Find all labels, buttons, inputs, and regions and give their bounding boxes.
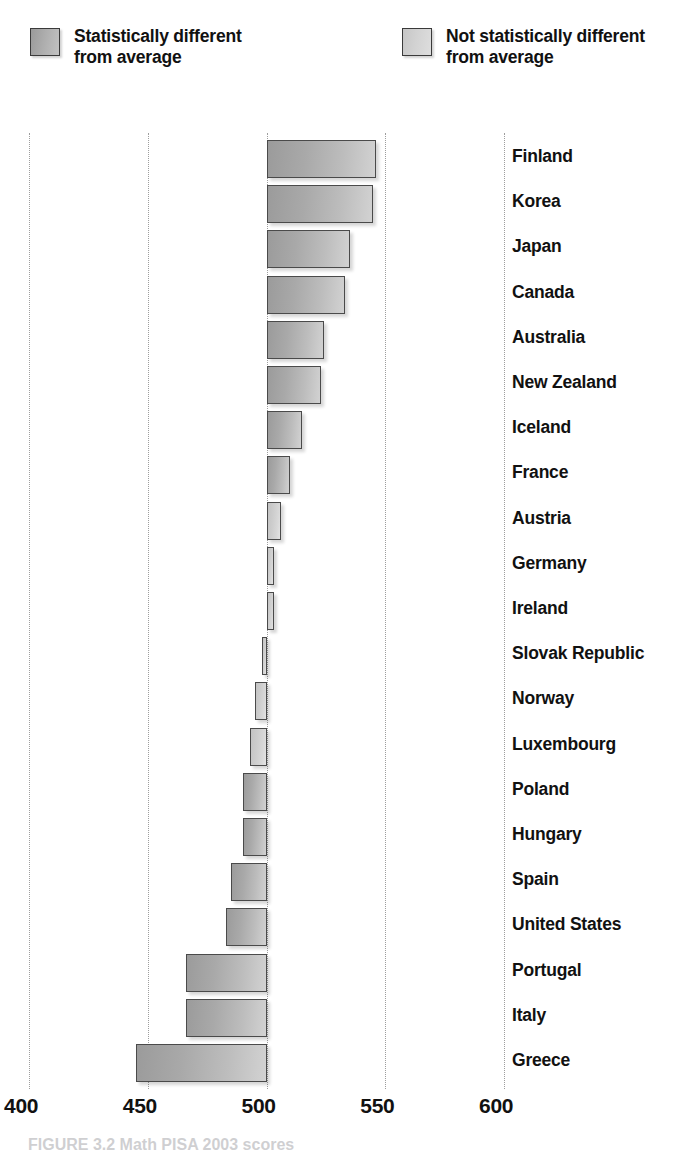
bar-row [0,318,696,363]
bar-row [0,996,696,1041]
category-label-canada: Canada [512,282,574,303]
category-label-finland: Finland [512,146,573,167]
bar-row [0,182,696,227]
bar-row [0,453,696,498]
category-label-spain: Spain [512,869,559,890]
bar-austria [267,502,281,540]
category-label-germany: Germany [512,553,586,574]
category-label-new-zealand: New Zealand [512,372,617,393]
bar-row [0,589,696,634]
bar-france [267,456,291,494]
category-label-united-states: United States [512,914,621,935]
bar-new-zealand [267,366,322,404]
bar-finland [267,140,376,178]
bar-row [0,860,696,905]
category-label-norway: Norway [512,688,574,709]
category-label-portugal: Portugal [512,960,581,981]
bar-row [0,137,696,182]
bar-italy [186,999,267,1037]
bar-row [0,227,696,272]
bar-luxembourg [250,728,267,766]
figure-caption: FIGURE 3.2 Math PISA 2003 scores [28,1136,688,1150]
category-label-ireland: Ireland [512,598,568,619]
tick-label-550: 550 [360,1094,394,1118]
category-label-hungary: Hungary [512,824,582,845]
bar-row [0,770,696,815]
category-label-italy: Italy [512,1005,546,1026]
bar-chart-plot-area: FinlandKoreaJapanCanadaAustraliaNew Zeal… [0,0,696,1150]
category-label-greece: Greece [512,1050,570,1071]
bar-row [0,1041,696,1086]
category-label-slovak-republic: Slovak Republic [512,643,644,664]
bar-row [0,951,696,996]
bar-portugal [186,954,267,992]
category-label-luxembourg: Luxembourg [512,734,616,755]
bar-korea [267,185,374,223]
bar-greece [136,1044,267,1082]
bar-canada [267,276,345,314]
category-label-france: France [512,462,568,483]
bar-japan [267,230,350,268]
tick-label-500: 500 [242,1094,276,1118]
bar-hungary [243,818,267,856]
bar-united-states [226,908,266,946]
bar-iceland [267,411,303,449]
tick-label-600: 600 [479,1094,513,1118]
bar-row [0,273,696,318]
bar-row [0,544,696,589]
tick-label-400: 400 [4,1094,38,1118]
category-label-poland: Poland [512,779,569,800]
bar-ireland [267,592,274,630]
bar-poland [243,773,267,811]
tick-label-450: 450 [123,1094,157,1118]
category-label-australia: Australia [512,327,585,348]
bar-germany [267,547,274,585]
bar-australia [267,321,324,359]
category-label-austria: Austria [512,508,571,529]
category-label-korea: Korea [512,191,561,212]
bar-slovak-republic [262,637,267,675]
bar-row [0,815,696,860]
bar-spain [231,863,267,901]
bar-row [0,408,696,453]
bar-row [0,499,696,544]
bar-norway [255,682,267,720]
bar-row [0,679,696,724]
category-label-iceland: Iceland [512,417,571,438]
category-label-japan: Japan [512,236,562,257]
